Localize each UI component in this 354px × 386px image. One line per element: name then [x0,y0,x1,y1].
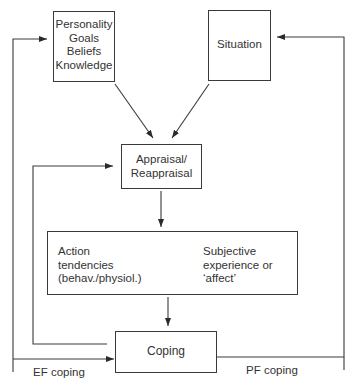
pf-coping-label: PF coping [246,364,298,378]
outer-feedback-to-personality [13,39,47,372]
arrow-personality-to-appraisal [115,84,153,138]
ef-coping-label: EF coping [33,366,85,380]
coping-label: Coping [115,345,217,359]
pf-feedback-to-situation [216,37,344,357]
personality-label: Personality Goals Beliefs Knowledge [53,18,115,72]
situation-label: Situation [208,38,271,52]
appraisal-label: Appraisal/ Reappraisal [121,153,202,180]
arrow-situation-to-appraisal [172,84,209,138]
action-tendencies-label: Action tendencies (behav./physiol.) [58,245,168,286]
subjective-experience-label: Subjective experience or ‘affect’ [203,245,295,286]
